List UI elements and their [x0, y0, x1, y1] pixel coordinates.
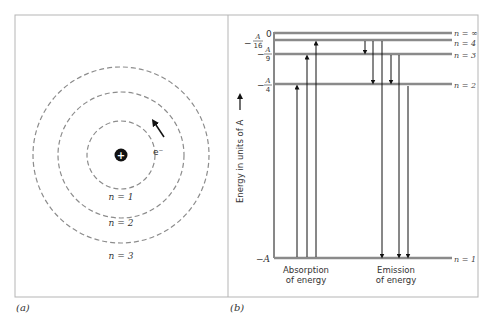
- n-label-n2: n = 2: [454, 81, 476, 90]
- orbit-label-n1: n = 1: [109, 192, 134, 202]
- electron-label: e⁻: [153, 147, 164, 157]
- figure-frame: [15, 15, 478, 297]
- emission-label-line1: Emission: [377, 265, 415, 275]
- n-label-n1: n = 1: [454, 255, 476, 264]
- panel-b-label: (b): [230, 302, 244, 313]
- orbit-label-n3: n = 3: [109, 251, 134, 261]
- minus-sign: −: [257, 80, 265, 90]
- absorption-label-line1: Absorption: [283, 265, 329, 275]
- energy-label-a4-den: 4: [266, 86, 271, 94]
- energy-label-a4-num: A: [264, 77, 270, 85]
- n-label-n4: n = 4: [454, 39, 476, 48]
- nucleus-plus: +: [117, 150, 125, 161]
- energy-label-a16-num: A: [254, 33, 260, 41]
- emission-arrows: [365, 41, 408, 256]
- minus-sign: −: [257, 49, 265, 59]
- energy-axis-label: Energy in units of A: [235, 120, 245, 203]
- emission-label-line2: of energy: [376, 275, 417, 285]
- energy-label-a9-num: A: [264, 46, 270, 54]
- panel-a-label: (a): [16, 302, 30, 313]
- panel-a-atom: + e⁻ n = 1 n = 2 n = 3: [33, 67, 209, 261]
- minus-sign: −: [244, 38, 252, 48]
- electron-direction-arrow-icon: [154, 122, 164, 137]
- orbit-label-n2: n = 2: [109, 218, 134, 228]
- panel-b-energy-diagram: Energy in units of A 0 − A 16 − A 9 − A …: [235, 29, 478, 285]
- n-label-inf: n = ∞: [454, 29, 478, 38]
- bohr-model-figure: + e⁻ n = 1 n = 2 n = 3 (a) Energy in uni…: [0, 0, 497, 334]
- absorption-arrows: [297, 43, 316, 257]
- n-label-n3: n = 3: [454, 51, 476, 60]
- energy-levels: [274, 33, 452, 258]
- energy-label-a9-den: 9: [266, 55, 270, 63]
- energy-label-zero: 0: [266, 29, 272, 39]
- absorption-label-line2: of energy: [286, 275, 327, 285]
- energy-label-a1: −A: [256, 254, 271, 264]
